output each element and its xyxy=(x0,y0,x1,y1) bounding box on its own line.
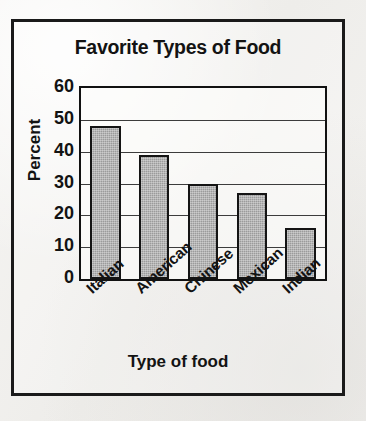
chart-title: Favorite Types of Food xyxy=(14,36,342,59)
y-axis-tick-labels: 0102030405060 xyxy=(34,86,74,281)
y-axis-tick-label: 40 xyxy=(54,141,74,159)
bars-layer xyxy=(81,88,325,279)
y-axis-tick-label: 30 xyxy=(54,173,74,191)
x-axis-title: Type of food xyxy=(14,352,342,372)
plot-area xyxy=(79,86,327,281)
x-axis-tick-labels: ItalianAmericanChineseMexicanIndian xyxy=(79,284,327,346)
y-axis-tick-label: 0 xyxy=(64,268,74,286)
y-axis-tick-label: 60 xyxy=(54,77,74,95)
y-axis-tick-label: 50 xyxy=(54,109,74,127)
y-axis-tick-label: 10 xyxy=(54,236,74,254)
y-axis-tick-label: 20 xyxy=(54,204,74,222)
chart-figure-frame: Favorite Types of Food Percent 010203040… xyxy=(11,19,345,396)
